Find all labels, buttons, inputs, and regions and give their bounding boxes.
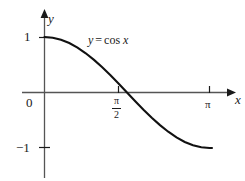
x-tick-label-pi-over-two: π 2 [112,96,121,120]
y-tick-label-negative-one: −1 [16,141,30,154]
x-axis-label: x [235,93,241,106]
equation-variable: x [123,33,128,47]
pi-over-two-denominator: 2 [114,110,119,121]
y-axis-label: y [48,12,54,25]
cosine-graph-figure [0,0,245,181]
y-tick-label-one: 1 [24,30,31,43]
x-tick-label-pi: π [205,99,211,110]
equation-function-name: cos [104,33,120,47]
pi-over-two-numerator: π [114,96,119,107]
equation-equals-sign: = [95,33,102,47]
curve-equation-annotation: y=cos x [88,34,128,46]
origin-label: 0 [26,96,33,109]
equation-lhs: y [88,33,93,47]
